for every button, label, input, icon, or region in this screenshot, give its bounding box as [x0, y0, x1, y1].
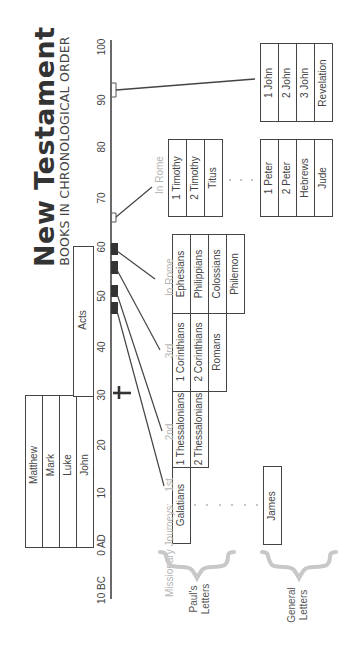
tick-20: 20 — [96, 429, 108, 461]
journey-3rd-label: 3rd — [163, 334, 177, 368]
book-cell: Philemon — [227, 235, 245, 313]
pauls-letters-line1: Paul's — [188, 574, 200, 624]
book-label: James — [265, 468, 279, 544]
book-label: 1 Timothy — [170, 140, 184, 216]
in-rome-label-1: In Rome — [163, 247, 177, 307]
book-label: 1 John — [262, 45, 276, 121]
leader-rome-1 — [117, 251, 155, 279]
tick-10: 10 — [96, 477, 108, 509]
journey-bar-2 — [111, 285, 118, 297]
journeys-prefix-label: Missionary Journeys: — [163, 495, 177, 605]
book-label: Philippians — [192, 236, 206, 312]
leader-john — [116, 79, 255, 90]
dotted-connector-titus-peter — [229, 179, 253, 181]
book-cell: 2 Corinthians — [191, 313, 209, 391]
book-label: 2 Thessalonians — [192, 391, 206, 467]
general-letters-label: General Letters — [286, 576, 314, 634]
book-cell: Philippians — [191, 235, 209, 313]
tick-10bc: 10 BC — [96, 572, 108, 608]
gospel-mark: Mark — [43, 396, 60, 547]
cross-icon — [113, 386, 131, 399]
book-cell: Titus — [205, 140, 223, 216]
letters-thessalonians-box: 1 Thessalonians 2 Thessalonians — [172, 390, 209, 468]
acts-label: Acts — [76, 251, 90, 389]
gospels-box: Matthew Mark Luke John — [25, 395, 94, 548]
book-cell: Romans — [209, 313, 227, 391]
gospel-luke: Luke — [60, 396, 77, 547]
gospel-label: Mark — [44, 397, 58, 533]
tick-40: 40 — [96, 331, 108, 363]
journey-1st-label: 1st — [163, 470, 177, 500]
leader-1st — [117, 311, 164, 486]
gospel-label: Matthew — [27, 397, 41, 533]
book-label: Hebrews — [298, 140, 312, 216]
journey-bar-3 — [111, 261, 118, 274]
tick-0ad: 0 AD — [96, 527, 108, 563]
journey-bar-1 — [111, 302, 118, 314]
letters-james-box: James — [263, 466, 282, 545]
tick-90: 90 — [96, 84, 108, 116]
book-label: 3 John — [298, 45, 312, 121]
book-label: Romans — [210, 314, 224, 390]
book-cell: 1 Peter — [261, 140, 279, 216]
general-letters-line2: Letters — [298, 576, 310, 634]
book-cell: 2 Timothy — [187, 140, 205, 216]
book-label: 2 Corinthians — [192, 314, 206, 390]
book-cell: 3 John — [297, 44, 315, 121]
book-label: Revelation — [316, 45, 330, 121]
tick-70: 70 — [96, 182, 108, 214]
journey-bar-4 — [111, 243, 118, 255]
book-label: 2 John — [280, 45, 294, 121]
book-label: Jude — [316, 140, 330, 216]
book-label: 2 Timothy — [188, 140, 202, 216]
page-subtitle: BOOKS IN CHRONOLOGICAL ORDER — [57, 21, 73, 281]
letters-pastoral-box: 1 Timothy 2 Timothy Titus — [168, 139, 223, 217]
book-label: 2 Peter — [280, 140, 294, 216]
acts-box: Acts — [73, 246, 94, 397]
bracket-65 — [112, 213, 116, 222]
book-cell: Colossians — [209, 235, 227, 313]
in-rome-label-2: In Rome — [153, 145, 167, 205]
book-label: Colossians — [210, 236, 224, 312]
dotted-connector-galatians-james — [194, 504, 258, 506]
book-label: 1 Peter — [262, 140, 276, 216]
brace-general-letters — [262, 552, 336, 578]
gospel-matthew: Matthew — [26, 396, 43, 547]
journey-2nd-label: 2nd — [163, 415, 177, 449]
leader-2nd — [117, 294, 162, 431]
letters-prison-box: Ephesians Philippians Colossians Philemo… — [172, 234, 245, 314]
tick-30: 30 — [96, 379, 108, 411]
bracket-90 — [112, 83, 116, 97]
tick-50: 50 — [96, 280, 108, 312]
letters-corinthians-box: 1 Corinthians 2 Corinthians Romans — [172, 312, 227, 392]
book-cell: 1 John — [261, 44, 279, 121]
gospel-john: John — [77, 396, 94, 547]
book-cell: 1 Timothy — [169, 140, 187, 216]
gospel-label: Luke — [61, 397, 75, 533]
pauls-letters-label: Paul's Letters — [188, 574, 216, 624]
letters-john-box: 1 John 2 John 3 John Revelation — [260, 43, 333, 122]
book-label: Philemon — [228, 236, 242, 312]
book-cell: Hebrews — [297, 140, 315, 216]
book-cell: 2 John — [279, 44, 297, 121]
tick-60: 60 — [96, 231, 108, 263]
book-cell: Jude — [315, 140, 333, 216]
book-label: Titus — [206, 140, 220, 216]
tick-80: 80 — [96, 131, 108, 163]
gospel-label: John — [78, 397, 92, 533]
book-cell: 2 Peter — [279, 140, 297, 216]
book-cell: 2 Thessalonians — [191, 391, 209, 467]
pauls-letters-line2: Letters — [200, 574, 212, 624]
book-cell: Revelation — [315, 44, 333, 121]
leader-rome-2 — [116, 187, 152, 217]
general-letters-line1: General — [286, 576, 298, 634]
tick-100: 100 — [96, 31, 108, 63]
leader-3rd — [117, 270, 160, 350]
letters-peter-box: 1 Peter 2 Peter Hebrews Jude — [260, 139, 333, 217]
